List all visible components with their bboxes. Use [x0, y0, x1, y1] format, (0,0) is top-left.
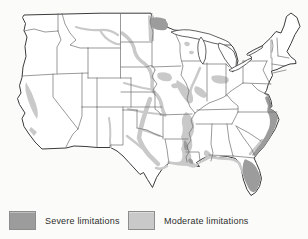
legend-item-severe: Severe limitations — [9, 211, 120, 230]
legend-item-moderate: Moderate limitations — [128, 211, 249, 230]
severe-swatch — [9, 211, 36, 230]
soil-limitations-map-figure: Severe limitations Moderate limitations — [0, 0, 308, 239]
moderate-label: Moderate limitations — [164, 216, 249, 226]
legend: Severe limitations Moderate limitations — [0, 208, 308, 239]
moderate-swatch — [128, 211, 155, 230]
us-map — [0, 0, 308, 239]
severe-label: Severe limitations — [45, 216, 120, 226]
